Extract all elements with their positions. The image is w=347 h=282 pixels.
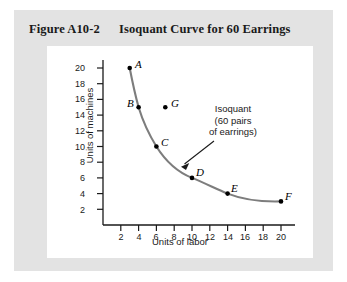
annotation-line-1: Isoquant xyxy=(187,103,279,115)
y-tick-label-18: 18 xyxy=(59,79,85,89)
isoquant-annotation: Isoquant (60 pairs of earrings) xyxy=(187,103,279,138)
y-tick-label-6: 6 xyxy=(59,173,85,183)
y-axis-ticks xyxy=(97,68,103,209)
y-tick-label-8: 8 xyxy=(59,157,85,167)
point-label-f: F xyxy=(285,190,292,202)
data-point-a xyxy=(127,66,132,71)
data-point-d xyxy=(190,176,195,181)
data-point-c xyxy=(154,144,159,149)
y-tick-label-14: 14 xyxy=(59,110,85,120)
annotation-line-3: of earrings) xyxy=(187,126,279,138)
point-label-g: G xyxy=(171,97,179,109)
y-axis-title: Units of machines xyxy=(84,78,95,174)
chart-plot-area: 2 4 6 8 10 12 14 16 18 20 2 4 6 8 10 12 … xyxy=(47,46,313,258)
figure-title-bar: Figure A10-2 Isoquant Curve for 60 Earri… xyxy=(14,10,333,48)
data-point-b xyxy=(136,105,141,110)
y-tick-label-2: 2 xyxy=(59,205,85,215)
point-label-c: C xyxy=(161,136,168,148)
data-point-e xyxy=(225,191,230,196)
data-point-f xyxy=(279,199,284,204)
annotation-arrow-line xyxy=(185,141,215,164)
point-label-e: E xyxy=(231,182,238,194)
point-label-b: B xyxy=(127,97,134,109)
figure-root: Figure A10-2 Isoquant Curve for 60 Earri… xyxy=(0,0,347,282)
data-point-g xyxy=(163,105,168,110)
annotation-line-2: (60 pairs xyxy=(187,115,279,127)
y-tick-label-10: 10 xyxy=(59,142,85,152)
y-tick-label-4: 4 xyxy=(59,189,85,199)
point-label-d: D xyxy=(196,166,204,178)
x-axis-title: Units of labor xyxy=(47,236,313,247)
point-label-a: A xyxy=(135,58,142,70)
y-tick-label-12: 12 xyxy=(59,126,85,136)
y-tick-label-20: 20 xyxy=(59,63,85,73)
y-tick-label-16: 16 xyxy=(59,94,85,104)
page-title: Isoquant Curve for 60 Earrings xyxy=(119,22,291,37)
figure-number: Figure A10-2 xyxy=(29,22,100,37)
x-axis-ticks xyxy=(121,225,281,231)
